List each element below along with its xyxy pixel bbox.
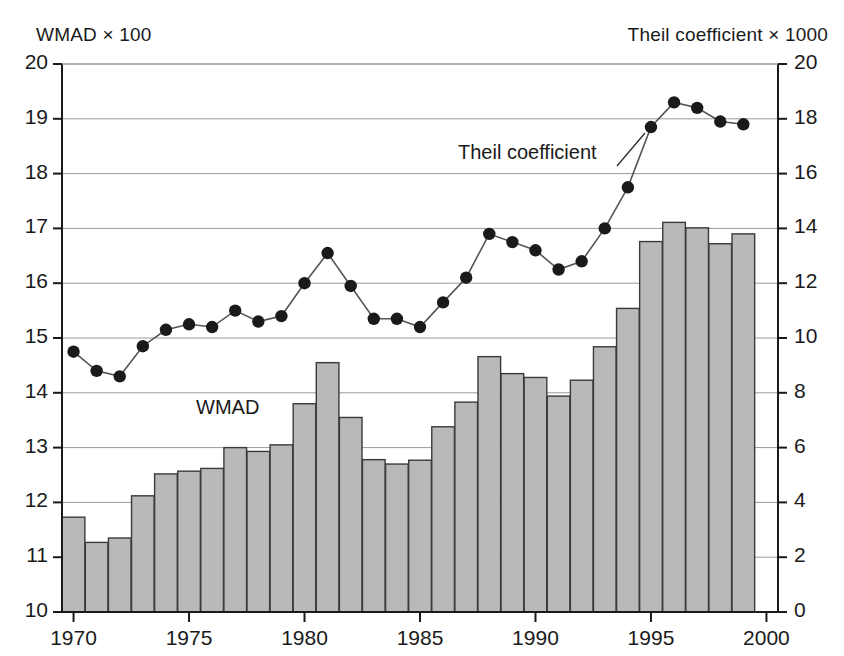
- theil-marker: [714, 115, 726, 127]
- bar: [362, 460, 385, 612]
- bar: [409, 460, 432, 612]
- bar: [732, 234, 755, 612]
- bar: [478, 357, 501, 612]
- theil-marker: [298, 277, 310, 289]
- theil-marker: [575, 255, 587, 267]
- theil-marker: [90, 365, 102, 377]
- theil-marker: [414, 321, 426, 333]
- theil-marker: [737, 118, 749, 130]
- plot-area: [0, 0, 844, 656]
- bar: [201, 468, 224, 612]
- theil-marker: [67, 346, 79, 358]
- theil-marker: [391, 313, 403, 325]
- bar: [85, 542, 108, 612]
- theil-marker: [483, 228, 495, 240]
- bar: [132, 496, 155, 612]
- theil-marker: [183, 318, 195, 330]
- theil-marker: [622, 181, 634, 193]
- theil-marker: [160, 324, 172, 336]
- bar: [686, 228, 709, 612]
- theil-marker: [275, 310, 287, 322]
- theil-marker: [552, 263, 564, 275]
- bar: [224, 448, 247, 612]
- bar: [501, 374, 524, 612]
- theil-marker: [114, 370, 126, 382]
- chart-container: WMAD × 100 Theil coefficient × 1000 1011…: [0, 0, 844, 656]
- theil-marker: [368, 313, 380, 325]
- bar: [155, 474, 178, 612]
- bar: [547, 396, 570, 612]
- series-label-wmad: WMAD: [196, 396, 259, 419]
- bar: [108, 538, 131, 612]
- theil-marker: [691, 102, 703, 114]
- theil-marker: [229, 304, 241, 316]
- theil-marker: [506, 236, 518, 248]
- bar: [709, 244, 732, 612]
- bar: [62, 517, 85, 612]
- bar: [570, 380, 593, 612]
- bar: [663, 222, 686, 612]
- theil-marker: [645, 121, 657, 133]
- theil-marker: [668, 96, 680, 108]
- bar: [247, 451, 270, 612]
- bar: [640, 242, 663, 612]
- bar: [339, 417, 362, 612]
- bar: [593, 347, 616, 612]
- bar: [270, 445, 293, 612]
- theil-marker: [206, 321, 218, 333]
- bar: [432, 427, 455, 612]
- bar: [293, 404, 316, 612]
- bar: [316, 363, 339, 612]
- bar: [617, 308, 640, 612]
- bar: [178, 471, 201, 612]
- annotation-leader-line: [617, 133, 645, 166]
- theil-marker: [345, 280, 357, 292]
- theil-marker: [599, 222, 611, 234]
- bar: [386, 464, 409, 612]
- bar: [455, 402, 478, 612]
- theil-marker: [460, 272, 472, 284]
- series-label-theil: Theil coefficient: [458, 141, 597, 164]
- theil-marker: [252, 315, 264, 327]
- theil-marker: [137, 340, 149, 352]
- theil-marker: [529, 244, 541, 256]
- theil-marker: [437, 296, 449, 308]
- theil-marker: [321, 247, 333, 259]
- bar: [524, 377, 547, 612]
